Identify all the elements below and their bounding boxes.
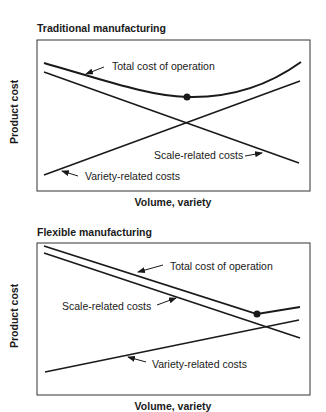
label-scale-cost-flexible: Scale-related costs — [62, 300, 151, 312]
label-variety-cost-flexible: Variety-related costs — [152, 358, 247, 370]
label-variety-cost-traditional: Variety-related costs — [85, 170, 180, 182]
minimum-dot-flexible — [254, 311, 261, 318]
minimum-dot-traditional — [184, 94, 191, 101]
label-total-cost-traditional: Total cost of operation — [112, 60, 215, 72]
label-scale-cost-traditional: Scale-related costs — [154, 149, 243, 161]
label-total-cost-flexible: Total cost of operation — [170, 260, 273, 272]
